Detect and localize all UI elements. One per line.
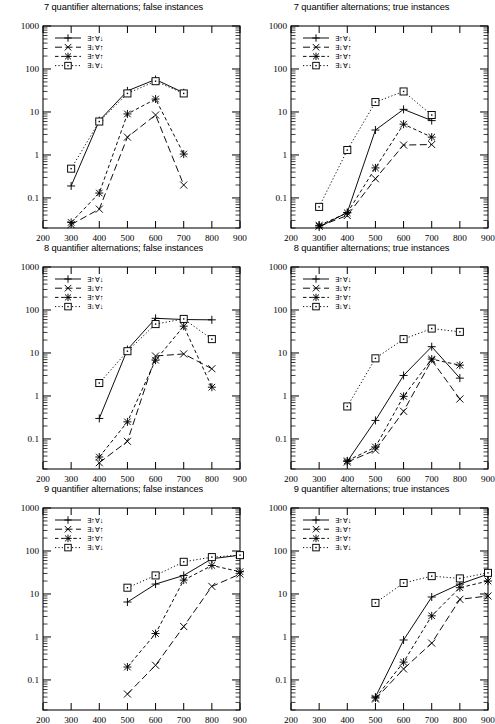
series-2 xyxy=(124,571,244,698)
x-tick-label: 800 xyxy=(205,233,219,242)
series-line xyxy=(319,145,432,227)
data-point xyxy=(428,141,435,148)
legend: ∃↑∀↓∃↓∀↑∃↑∀↑∃↓∀↓ xyxy=(55,34,103,71)
data-point xyxy=(180,315,187,322)
y-tick-label: 1000 xyxy=(269,21,288,31)
data-point xyxy=(208,365,215,372)
data-point xyxy=(428,593,436,601)
legend: ∃↑∀↓∃↓∀↑∃↑∀↑∃↓∀↓ xyxy=(55,516,103,553)
data-point xyxy=(316,203,323,210)
data-point xyxy=(428,573,435,580)
y-tick-label: 0.1 xyxy=(276,675,288,685)
data-point xyxy=(152,662,159,669)
series-2 xyxy=(96,350,216,466)
x-tick-label: 700 xyxy=(425,474,439,483)
data-point xyxy=(208,561,216,569)
legend-marker-4 xyxy=(313,62,320,69)
series-line xyxy=(99,354,212,463)
data-point xyxy=(180,181,187,188)
data-point xyxy=(344,403,351,410)
data-point xyxy=(152,111,159,118)
legend-label-1: ∃↑∀↓ xyxy=(87,516,103,525)
series-3 xyxy=(95,322,216,461)
x-tick-label: 600 xyxy=(149,715,163,724)
x-tick-label: 200 xyxy=(284,474,298,483)
x-tick-label: 500 xyxy=(121,474,135,483)
x-tick-label: 400 xyxy=(340,474,354,483)
legend-label-2: ∃↓∀↑ xyxy=(87,43,103,52)
data-point xyxy=(152,630,160,638)
data-point xyxy=(208,383,216,391)
data-point xyxy=(371,416,379,424)
legend-label-1: ∃↑∀↓ xyxy=(87,34,103,43)
data-point xyxy=(152,356,160,364)
legend-marker-1 xyxy=(312,275,319,282)
x-tick-label: 700 xyxy=(425,715,439,724)
y-tick-label: 0.1 xyxy=(276,434,288,444)
x-tick-label: 300 xyxy=(312,233,326,242)
series-1 xyxy=(343,343,464,466)
data-point xyxy=(400,636,408,644)
y-tick-label: 0.1 xyxy=(28,434,40,444)
legend-marker-1 xyxy=(64,34,71,41)
data-point xyxy=(152,95,160,103)
data-point xyxy=(152,321,159,328)
legend-marker-1 xyxy=(312,516,319,523)
legend-label-1: ∃↑∀↓ xyxy=(335,275,351,284)
plot-area: 10001001010.1200300400500600700800900∃↑∀… xyxy=(248,482,495,723)
plot-area: 10001001010.1200300400500600700800900∃↑∀… xyxy=(0,482,247,723)
data-point xyxy=(456,584,464,592)
plot-area: 10001001010.1200300400500600700800900∃↑∀… xyxy=(248,241,495,482)
data-point xyxy=(152,572,159,579)
legend-label-2: ∃↓∀↑ xyxy=(87,284,103,293)
series-line xyxy=(99,318,212,418)
x-tick-label: 400 xyxy=(340,233,354,242)
x-tick-label: 400 xyxy=(340,715,354,724)
data-point xyxy=(456,361,464,369)
axes-frame xyxy=(291,508,488,710)
series-4 xyxy=(316,88,436,210)
x-tick-label: 300 xyxy=(312,715,326,724)
axes-frame xyxy=(291,26,488,228)
x-tick-label: 700 xyxy=(177,715,191,724)
data-point xyxy=(400,408,407,415)
x-tick-label: 300 xyxy=(64,474,78,483)
legend-label-2: ∃↓∀↑ xyxy=(335,525,351,534)
legend-marker-3 xyxy=(64,53,71,60)
y-tick-label: 1 xyxy=(34,150,39,160)
x-tick-label: 600 xyxy=(149,474,163,483)
legend-marker-4 xyxy=(65,544,72,551)
x-tick-label: 700 xyxy=(177,233,191,242)
legend-label-2: ∃↓∀↑ xyxy=(335,284,351,293)
data-point xyxy=(236,552,243,559)
legend-marker-4 xyxy=(65,62,72,69)
y-tick-label: 10 xyxy=(30,348,40,358)
y-tick-label: 100 xyxy=(25,64,39,74)
data-point xyxy=(456,395,463,402)
x-tick-label: 900 xyxy=(481,715,495,724)
data-point xyxy=(67,182,75,190)
legend: ∃↑∀↓∃↓∀↑∃↑∀↑∃↓∀↓ xyxy=(303,34,351,71)
y-tick-label: 1000 xyxy=(269,503,288,513)
figure-grid: 7 quantifier alternations; false instanc… xyxy=(0,0,495,724)
legend-label-4: ∃↓∀↓ xyxy=(335,543,351,552)
x-tick-label: 800 xyxy=(453,233,467,242)
data-point xyxy=(372,99,379,106)
data-point xyxy=(400,658,408,666)
data-point xyxy=(180,322,188,330)
legend-marker-1 xyxy=(312,34,319,41)
series-2 xyxy=(372,592,492,702)
data-point xyxy=(371,164,379,172)
series-2 xyxy=(68,111,188,228)
data-point xyxy=(208,316,216,324)
chart-panel-bottom-right: 9 quantifier alternations; true instance… xyxy=(248,482,495,723)
y-tick-label: 10 xyxy=(30,589,40,599)
data-point xyxy=(456,575,463,582)
data-point xyxy=(372,175,379,182)
series-4 xyxy=(124,552,244,592)
data-point xyxy=(68,165,75,172)
data-point xyxy=(208,583,215,590)
legend-label-4: ∃↓∀↓ xyxy=(87,61,103,70)
data-point xyxy=(180,623,187,630)
y-tick-label: 1 xyxy=(282,391,287,401)
